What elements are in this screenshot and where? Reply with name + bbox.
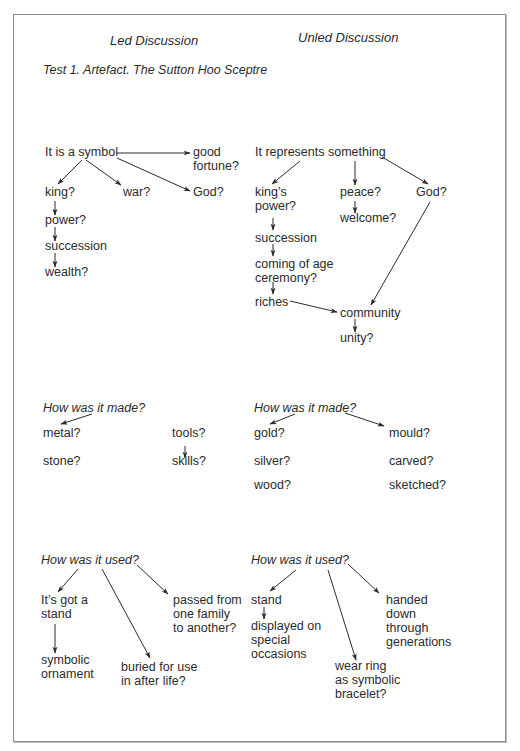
test-title: Test 1. Artefact. The Sutton Hoo Sceptre xyxy=(43,63,267,77)
node-mould: mould? xyxy=(389,426,430,440)
node-good-fortune: good fortune? xyxy=(193,145,239,173)
node-carved: carved? xyxy=(389,454,433,468)
node-stone: stone? xyxy=(43,454,81,468)
node-symbolic-ornament: symbolic ornament xyxy=(41,653,94,681)
question-how-used-led: How was it used? xyxy=(41,553,139,567)
node-gold: gold? xyxy=(254,426,285,440)
node-passed-from: passed from one family to another? xyxy=(173,593,242,635)
node-peace: peace? xyxy=(340,185,381,199)
node-succession-led: succession xyxy=(45,239,107,253)
node-succession-unled: succession xyxy=(255,231,317,245)
question-how-made-led: How was it made? xyxy=(43,401,145,415)
arrow-riches-to-community xyxy=(290,301,337,312)
node-welcome: welcome? xyxy=(340,211,396,225)
node-kings-power: king’s power? xyxy=(255,185,296,213)
node-wood: wood? xyxy=(254,478,291,492)
arrow-made-to-metal xyxy=(61,414,92,424)
arrow-used-to-buried xyxy=(102,569,150,658)
arrow-symbol-to-war xyxy=(86,160,121,185)
question-how-used-unled: How was it used? xyxy=(251,553,349,567)
arrow-used-to-handed-down xyxy=(348,564,379,593)
node-metal: metal? xyxy=(43,426,81,440)
arrow-used-to-stand xyxy=(58,569,78,592)
node-unity: unity? xyxy=(340,331,373,345)
node-it-represents-something: It represents something xyxy=(255,145,386,159)
node-war: war? xyxy=(123,185,150,199)
arrow-used-to-passed xyxy=(137,565,168,594)
node-buried: buried for use in after life? xyxy=(121,660,197,688)
arrow-symbol-to-king xyxy=(58,160,82,184)
node-it-is-a-symbol: It is a symbol xyxy=(45,145,118,159)
node-riches: riches xyxy=(255,295,288,309)
node-community: community xyxy=(340,306,400,320)
node-stand-unled: stand xyxy=(251,593,282,607)
arrow-used-to-stand-unled xyxy=(270,570,296,591)
node-displayed: displayed on special occasions xyxy=(251,619,321,661)
node-power: power? xyxy=(45,213,86,227)
arrow-used-to-wear-ring xyxy=(328,570,356,660)
led-discussion-heading: Led Discussion xyxy=(110,34,198,48)
arrow-represents-to-god xyxy=(382,157,428,184)
node-tools: tools? xyxy=(172,426,205,440)
node-wealth: wealth? xyxy=(45,265,88,279)
node-wear-ring: wear ring as symbolic bracelet? xyxy=(335,659,400,701)
node-god-unled: God? xyxy=(416,185,447,199)
node-sketched: sketched? xyxy=(389,478,446,492)
node-god-led: God? xyxy=(193,185,224,199)
arrow-made-to-gold xyxy=(270,414,295,424)
node-coming-of-age: coming of age ceremony? xyxy=(255,257,334,285)
node-its-got-a-stand: It’s got a stand xyxy=(41,593,88,621)
node-skills: skills? xyxy=(172,454,206,468)
node-silver: silver? xyxy=(254,454,290,468)
question-how-made-unled: How was it made? xyxy=(254,401,356,415)
node-king: king? xyxy=(45,185,75,199)
unled-discussion-heading: Unled Discussion xyxy=(298,31,398,45)
node-handed-down: handed down through generations xyxy=(386,593,451,649)
arrow-represents-to-kings-power xyxy=(272,161,300,184)
